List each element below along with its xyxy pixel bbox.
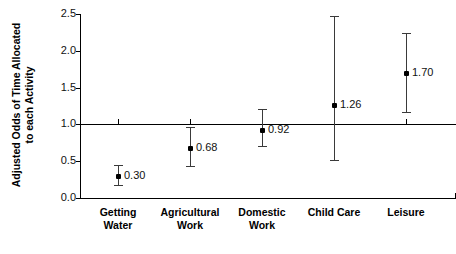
y-axis-tick-label: 0.5 — [40, 154, 76, 166]
data-point-value-label: 0.92 — [268, 123, 289, 135]
error-bar-cap-lower — [402, 112, 411, 113]
x-axis-spine — [80, 198, 456, 199]
x-axis-tick-mark — [118, 119, 119, 124]
data-point — [332, 103, 337, 108]
y-axis-tick-mark — [76, 88, 81, 89]
x-axis-category-label-line: Work — [207, 219, 317, 232]
error-bar-cap-upper — [330, 16, 339, 17]
error-bar-cap-upper — [258, 109, 267, 110]
y-axis-tick-label: 1.0 — [40, 117, 76, 129]
y-axis-tick-mark — [76, 14, 81, 15]
y-axis-spine — [80, 14, 81, 199]
x-axis-tick-mark — [190, 119, 191, 124]
x-axis-end-cap — [80, 193, 81, 198]
x-axis-category-label-line: Leisure — [351, 206, 456, 219]
y-axis-tick-mark — [76, 124, 81, 125]
y-axis-tick-label: 0.0 — [40, 191, 76, 203]
error-bar-line — [334, 16, 335, 160]
data-point — [260, 128, 265, 133]
data-point-value-label: 0.30 — [124, 169, 145, 181]
x-axis-tick-mark — [406, 119, 407, 124]
error-bar-cap-lower — [330, 160, 339, 161]
y-axis-title-line-1: Adjusted Odds of Time Allocated — [10, 23, 23, 188]
error-bar-cap-lower — [114, 185, 123, 186]
data-point-value-label: 1.70 — [412, 66, 433, 78]
y-axis-tick-label: 1.5 — [40, 81, 76, 93]
data-point-value-label: 0.68 — [196, 141, 217, 153]
y-axis-tick-label: 2.5 — [40, 7, 76, 19]
y-axis-title-line-2: to each Activity — [23, 23, 36, 188]
x-axis-category-label: Leisure — [351, 206, 456, 219]
y-axis-tick-mark — [76, 198, 81, 199]
chart-figure: Adjusted Odds of Time Allocated to each … — [0, 0, 456, 254]
data-point-value-label: 1.26 — [340, 98, 361, 110]
data-point — [404, 71, 409, 76]
data-point — [188, 146, 193, 151]
error-bar-cap-upper — [402, 33, 411, 34]
plot-area: 0.30GettingWater0.68AgriculturalWork0.92… — [80, 0, 456, 254]
data-point — [116, 174, 121, 179]
y-axis-tick-mark — [76, 51, 81, 52]
y-axis-tick-label: 2.0 — [40, 44, 76, 56]
error-bar-cap-upper — [114, 165, 123, 166]
error-bar-cap-upper — [186, 127, 195, 128]
error-bar-cap-lower — [186, 166, 195, 167]
y-axis-tick-mark — [76, 161, 81, 162]
error-bar-cap-lower — [258, 146, 267, 147]
